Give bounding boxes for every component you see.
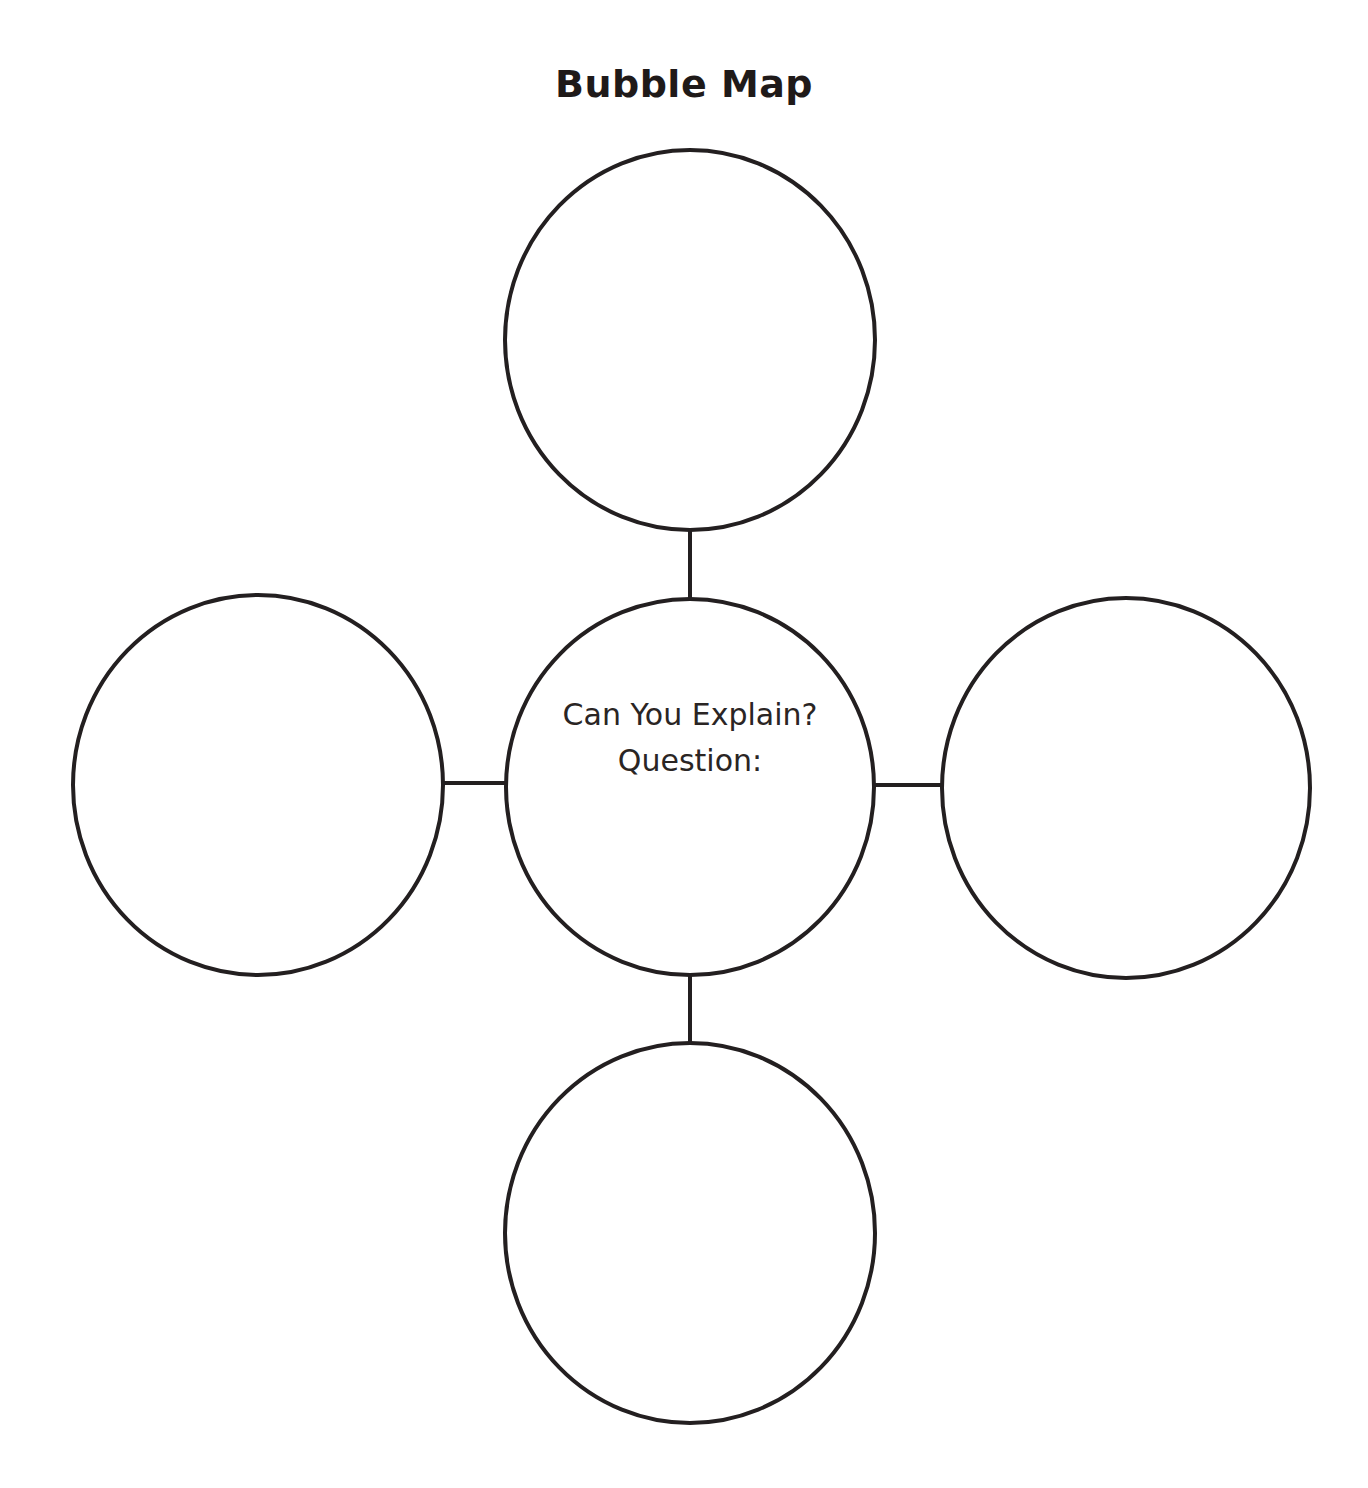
bubble-bottom[interactable] — [505, 1043, 875, 1423]
center-bubble-question-label: Question: — [510, 738, 870, 784]
bubble-right[interactable] — [942, 598, 1310, 978]
center-bubble-label: Can You Explain? Question: — [510, 692, 870, 784]
bubble-left[interactable] — [73, 595, 443, 975]
center-bubble-heading: Can You Explain? — [510, 692, 870, 738]
bubble-center[interactable] — [506, 599, 874, 975]
bubble-top[interactable] — [505, 150, 875, 530]
